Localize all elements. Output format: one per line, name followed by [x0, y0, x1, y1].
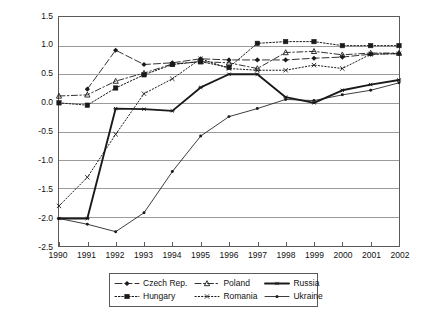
legend-item-russia[interactable]: Russia — [264, 279, 322, 288]
y-tick-label: -1.5 — [38, 185, 53, 194]
x-tick-label: 1993 — [134, 250, 153, 260]
x-tick-label: 1999 — [305, 250, 324, 260]
y-tick-label: 1.5 — [41, 12, 53, 21]
legend-swatch-asterisk-icon — [264, 279, 290, 288]
legend-item-hungary[interactable]: Hungary — [114, 292, 187, 301]
y-axis: 1.51.00.50.0-0.5-1.0-1.5-2.0-2.5 — [0, 0, 56, 323]
legend-label: Russia — [293, 279, 319, 288]
y-tick-label: 1.0 — [41, 40, 53, 49]
x-tick-label: 1998 — [277, 250, 296, 260]
x-tick-label: 1991 — [77, 250, 96, 260]
legend-label: Hungary — [143, 292, 175, 301]
legend-item-ukraine[interactable]: Ukraine — [264, 292, 322, 301]
legend-swatch-triangle-icon — [194, 279, 220, 288]
y-tick-label: -2.0 — [38, 214, 53, 223]
series-lines — [59, 17, 399, 246]
y-tick-label: -1.0 — [38, 156, 53, 165]
x-tick-label: 2001 — [362, 250, 381, 260]
x-tick-label: 1990 — [49, 250, 68, 260]
series-ukraine — [58, 81, 401, 233]
series-russia — [57, 73, 401, 221]
legend-swatch-cross-icon — [194, 292, 220, 301]
chart-legend: Czech Rep.PolandRussiaHungaryRomaniaUkra… — [109, 273, 318, 307]
legend-swatch-square-icon — [114, 292, 140, 301]
legend-label: Ukraine — [293, 292, 322, 301]
legend-swatch-dot-icon — [264, 292, 290, 301]
x-tick-label: 1996 — [220, 250, 239, 260]
legend-label: Poland — [223, 279, 249, 288]
x-tick-label: 1995 — [191, 250, 210, 260]
x-tick-label: 2002 — [391, 250, 410, 260]
y-tick-label: 0.0 — [41, 98, 53, 107]
y-tick-label: 0.5 — [41, 69, 53, 78]
legend-item-romania[interactable]: Romania — [194, 292, 257, 301]
x-tick-label: 1997 — [248, 250, 267, 260]
y-tick-label: -0.5 — [38, 127, 53, 136]
legend-swatch-diamond-icon — [114, 279, 140, 288]
legend-label: Romania — [223, 292, 257, 301]
x-tick-label: 1992 — [106, 250, 125, 260]
x-axis: 1990199119921993199419951996199719981999… — [58, 250, 400, 266]
legend-label: Czech Rep. — [143, 279, 187, 288]
x-tick-label: 2000 — [334, 250, 353, 260]
plot-area — [58, 16, 400, 247]
legend-item-czech-rep[interactable]: Czech Rep. — [114, 279, 187, 288]
x-tick-label: 1994 — [163, 250, 182, 260]
chart-figure: 1.51.00.50.0-0.5-1.0-1.5-2.0-2.5 1990199… — [0, 0, 425, 323]
legend-item-poland[interactable]: Poland — [194, 279, 257, 288]
